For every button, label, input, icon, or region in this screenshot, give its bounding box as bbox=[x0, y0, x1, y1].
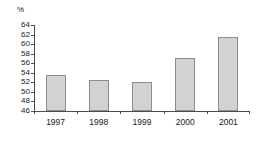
x-axis-tick-mark bbox=[207, 111, 208, 114]
bar bbox=[46, 75, 66, 111]
y-axis-tick-label: 56 bbox=[21, 58, 30, 67]
x-axis-category-label: 2000 bbox=[164, 117, 207, 127]
x-axis-tick-mark bbox=[77, 111, 78, 114]
y-axis-tick-mark bbox=[31, 82, 35, 83]
y-axis-tick-mark bbox=[31, 25, 35, 26]
y-axis-tick-label: 54 bbox=[21, 68, 30, 77]
bar-chart: % 46485052545658606264 19971998199920002… bbox=[0, 0, 258, 145]
x-axis-tick-mark bbox=[34, 111, 35, 114]
x-axis-category-label: 1998 bbox=[77, 117, 120, 127]
x-axis-category-label: 1999 bbox=[120, 117, 163, 127]
y-axis-tick-label: 52 bbox=[21, 77, 30, 86]
y-axis-tick-label: 60 bbox=[21, 39, 30, 48]
y-axis-tick-mark bbox=[31, 101, 35, 102]
x-axis-category-label: 1997 bbox=[34, 117, 77, 127]
y-axis-tick-mark bbox=[31, 73, 35, 74]
y-axis-tick-mark bbox=[31, 63, 35, 64]
y-axis-tick-label: 46 bbox=[21, 106, 30, 115]
y-axis-tick-mark bbox=[31, 35, 35, 36]
y-axis-tick-label: 50 bbox=[21, 87, 30, 96]
y-axis-tick-mark bbox=[31, 44, 35, 45]
y-axis-tick-label: 58 bbox=[21, 49, 30, 58]
x-axis-line bbox=[34, 111, 250, 112]
y-axis-tick-label: 48 bbox=[21, 96, 30, 105]
y-axis-unit-label: % bbox=[17, 5, 24, 15]
bar bbox=[89, 80, 109, 111]
x-axis-tick-mark bbox=[249, 111, 250, 114]
y-axis-tick-label: 64 bbox=[21, 20, 30, 29]
x-axis-tick-mark bbox=[164, 111, 165, 114]
bar bbox=[218, 37, 238, 111]
plot-area: 46485052545658606264 1997199819992000200… bbox=[34, 25, 250, 111]
bar bbox=[132, 82, 152, 111]
y-axis-tick-mark bbox=[31, 54, 35, 55]
bar bbox=[175, 58, 195, 112]
y-axis-line bbox=[34, 25, 35, 111]
x-axis-tick-mark bbox=[120, 111, 121, 114]
y-axis-tick-mark bbox=[31, 92, 35, 93]
x-axis-category-label: 2001 bbox=[207, 117, 250, 127]
y-axis-tick-label: 62 bbox=[21, 30, 30, 39]
